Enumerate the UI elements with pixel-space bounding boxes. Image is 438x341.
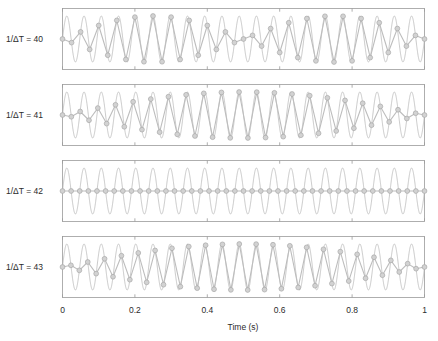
aliasing-figure: 1/ΔT = 40 1/ΔT = 41 1/ΔT = 42 1/ΔT = 43 … xyxy=(0,0,438,341)
sample-marker xyxy=(153,248,158,253)
sample-marker xyxy=(397,270,402,275)
sample-marker xyxy=(241,37,246,42)
sampled-line-41 xyxy=(63,92,425,138)
panel-43: 1/ΔT = 43 xyxy=(6,237,427,298)
sample-marker xyxy=(129,189,134,194)
sample-marker xyxy=(332,60,337,65)
sample-marker xyxy=(380,273,385,278)
sample-marker xyxy=(166,94,171,99)
sample-marker xyxy=(330,281,335,286)
sample-marker xyxy=(413,111,418,116)
sample-marker xyxy=(228,135,233,140)
sample-marker xyxy=(310,189,315,194)
sample-marker xyxy=(105,53,110,58)
sample-marker xyxy=(170,246,175,251)
sample-marker xyxy=(254,242,259,247)
sample-marker xyxy=(246,136,251,141)
sample-marker xyxy=(214,47,219,52)
sample-marker xyxy=(422,189,427,194)
sample-marker xyxy=(293,189,298,194)
sample-marker xyxy=(341,14,346,19)
sampled-line-43 xyxy=(63,244,425,290)
sample-marker xyxy=(60,189,65,194)
sample-marker xyxy=(113,102,118,107)
sample-marker xyxy=(279,286,284,291)
sample-marker xyxy=(281,134,286,139)
sample-marker xyxy=(172,189,177,194)
sample-marker xyxy=(301,189,306,194)
sample-marker xyxy=(277,50,282,55)
sample-marker xyxy=(131,99,136,104)
sample-marker xyxy=(205,23,210,28)
sample-marker xyxy=(372,255,377,260)
x-tick-label: 1 xyxy=(422,305,427,315)
sample-marker xyxy=(69,114,74,119)
sample-marker xyxy=(404,116,409,121)
sample-marker xyxy=(189,189,194,194)
sample-marker xyxy=(379,189,384,194)
sample-marker xyxy=(351,126,356,131)
sample-marker xyxy=(422,37,427,42)
sample-marker xyxy=(201,91,206,96)
sample-marker xyxy=(112,189,117,194)
sample-marker xyxy=(212,287,217,292)
sample-marker xyxy=(343,98,348,103)
x-tick-label: 0.2 xyxy=(129,305,141,315)
sample-marker xyxy=(404,44,409,49)
sample-marker xyxy=(95,189,100,194)
sample-marker xyxy=(370,189,375,194)
sample-marker xyxy=(60,37,65,42)
sample-marker xyxy=(169,15,174,20)
sample-marker xyxy=(336,189,341,194)
sample-marker xyxy=(77,189,82,194)
sample-marker xyxy=(338,249,343,254)
x-tick-label: 0.8 xyxy=(346,305,358,315)
sample-marker xyxy=(353,189,358,194)
sample-marker xyxy=(195,286,200,291)
x-tick-label: 0.4 xyxy=(201,305,213,315)
sample-marker xyxy=(378,104,383,109)
panel-41: 1/ΔT = 41 xyxy=(6,85,427,146)
sample-marker xyxy=(413,33,418,38)
sample-marker xyxy=(268,26,273,31)
sample-marker xyxy=(78,29,83,34)
panel-label-40: 1/ΔT = 40 xyxy=(6,34,43,44)
sample-marker xyxy=(388,258,393,263)
sample-marker xyxy=(388,189,393,194)
sample-marker xyxy=(350,58,355,63)
sample-marker xyxy=(219,90,224,95)
sample-marker xyxy=(345,189,350,194)
sample-marker xyxy=(178,284,183,289)
sample-marker xyxy=(187,18,192,23)
sample-marker xyxy=(323,14,328,19)
sample-marker xyxy=(186,244,191,249)
x-tick-label: 0.6 xyxy=(274,305,286,315)
sample-marker xyxy=(78,109,83,114)
sample-marker xyxy=(405,261,410,266)
sample-marker xyxy=(386,50,391,55)
sample-marker xyxy=(237,242,242,247)
sample-marker xyxy=(334,129,339,134)
sample-marker xyxy=(157,130,162,135)
sample-marker xyxy=(123,57,128,62)
x-axis-tick-labels: 00.20.40.60.81 xyxy=(60,305,427,315)
sample-marker xyxy=(259,44,264,49)
sample-marker xyxy=(363,276,368,281)
sample-markers-40 xyxy=(60,14,427,65)
sample-marker xyxy=(267,189,272,194)
panel-40: 1/ΔT = 40 xyxy=(6,9,427,70)
sample-marker xyxy=(207,189,212,194)
sample-marker xyxy=(127,277,132,282)
sample-marker xyxy=(396,107,401,112)
sample-marker xyxy=(77,268,82,273)
sample-marker xyxy=(387,120,392,125)
sample-marker xyxy=(87,47,92,52)
sample-marker xyxy=(250,189,255,194)
sample-marker xyxy=(254,90,259,95)
sample-marker xyxy=(94,271,99,276)
sample-marker xyxy=(155,189,160,194)
sample-marker xyxy=(250,33,255,38)
sample-marker xyxy=(362,189,367,194)
sample-marker xyxy=(272,90,277,95)
sample-markers-42 xyxy=(60,189,427,194)
